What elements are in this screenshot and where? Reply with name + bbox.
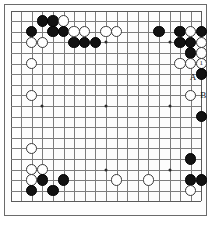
stone-black[interactable]	[185, 47, 196, 58]
star-point	[168, 168, 171, 171]
board-label-b: B	[200, 91, 206, 100]
grid-line-horizontal	[11, 138, 202, 139]
stone-black[interactable]	[26, 26, 37, 37]
stone-black[interactable]	[90, 37, 101, 48]
star-point	[168, 104, 171, 107]
grid-line-horizontal	[11, 85, 202, 86]
stone-white[interactable]	[185, 90, 196, 101]
stone-white[interactable]	[26, 37, 37, 48]
grid-line-horizontal	[11, 53, 202, 54]
star-point	[168, 41, 171, 44]
stone-black[interactable]	[37, 174, 48, 185]
grid-line-horizontal	[11, 11, 202, 12]
board-grid: 1AB	[0, 0, 213, 225]
star-point	[104, 104, 107, 107]
stone-white[interactable]	[111, 26, 122, 37]
stone-black[interactable]	[185, 153, 196, 164]
stone-black[interactable]	[196, 26, 207, 37]
grid-line-horizontal	[11, 95, 202, 96]
stone-white[interactable]	[37, 37, 48, 48]
stone-white[interactable]	[26, 143, 37, 154]
stone-black[interactable]	[47, 185, 58, 196]
stone-white[interactable]	[143, 174, 154, 185]
stone-white[interactable]	[111, 174, 122, 185]
stone-white[interactable]	[185, 185, 196, 196]
stone-white[interactable]	[26, 90, 37, 101]
grid-line-horizontal	[11, 191, 202, 192]
stone-white[interactable]	[185, 26, 196, 37]
stone-move-number: 1	[197, 59, 206, 68]
stone-black[interactable]	[196, 174, 207, 185]
grid-line-horizontal	[11, 74, 202, 75]
grid-line-horizontal	[11, 64, 202, 65]
stone-white[interactable]	[185, 58, 196, 69]
board-label-a: A	[190, 73, 197, 82]
stone-black[interactable]	[47, 26, 58, 37]
stone-white[interactable]	[26, 58, 37, 69]
stone-black[interactable]	[79, 37, 90, 48]
stone-black[interactable]	[26, 185, 37, 196]
stone-black[interactable]	[58, 174, 69, 185]
grid-line-horizontal	[11, 201, 202, 202]
star-point	[41, 104, 44, 107]
star-point	[104, 41, 107, 44]
grid-line-horizontal	[11, 127, 202, 128]
grid-line-horizontal	[11, 159, 202, 160]
grid-line-horizontal	[11, 148, 202, 149]
stone-white[interactable]	[79, 26, 90, 37]
stone-black[interactable]	[196, 111, 207, 122]
grid-line-horizontal	[11, 117, 202, 118]
star-point	[104, 168, 107, 171]
stone-white[interactable]	[100, 26, 111, 37]
stone-black[interactable]	[196, 68, 207, 79]
go-diagram: 1AB	[0, 0, 213, 225]
stone-black[interactable]	[153, 26, 164, 37]
stone-white[interactable]	[196, 47, 207, 58]
